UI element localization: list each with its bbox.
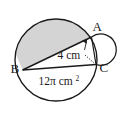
measure-leader-dotted-to-c [85, 55, 94, 63]
segment-ac-measure-label: 4 cm [58, 49, 81, 61]
geometry-diagram-canvas: A B C 4 cm 12π cm 2 [0, 0, 125, 116]
vertex-label-a: A [93, 19, 103, 34]
vertex-label-c: C [100, 60, 109, 75]
area-measure-exponent: 2 [76, 74, 80, 83]
area-measure-label: 12π cm [39, 75, 73, 87]
geometry-figure: A B C 4 cm 12π cm 2 [0, 0, 125, 116]
measure-leader-arrow-to-a [85, 42, 87, 51]
vertex-label-b: B [11, 61, 20, 76]
